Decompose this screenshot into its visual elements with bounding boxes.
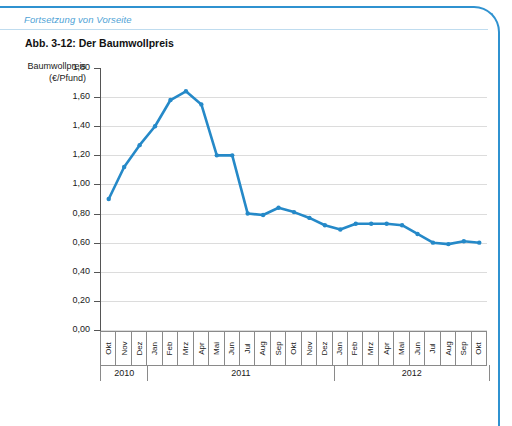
y-axis-tick-label: 0,20 xyxy=(6,295,90,305)
y-axis-tick xyxy=(94,272,100,273)
x-axis-month-label: Okt xyxy=(474,342,483,354)
x-axis-month-cell: Mai xyxy=(394,331,409,365)
data-point xyxy=(245,211,249,215)
x-axis-month-cell: Jun xyxy=(410,331,425,365)
x-axis-month-cell: Okt xyxy=(101,331,116,365)
data-point xyxy=(431,240,435,244)
x-axis-month-cell: Jan xyxy=(147,331,162,365)
series-baumwollpreis xyxy=(101,68,487,330)
x-axis-month-label: Apr xyxy=(196,342,205,354)
x-axis-month-label: Jan xyxy=(335,342,344,355)
data-point xyxy=(338,227,342,231)
y-axis-tick-label: 1,60 xyxy=(6,91,90,101)
data-point xyxy=(462,239,466,243)
x-axis-month-cell: Mai xyxy=(209,331,224,365)
x-axis-month-label: Mrz xyxy=(366,341,375,354)
y-axis-tick xyxy=(94,126,100,127)
y-axis-tick xyxy=(94,243,100,244)
x-axis-month-label: Feb xyxy=(165,341,174,355)
x-axis-month-cell: Nov xyxy=(116,331,131,365)
x-axis-month-label: Mai xyxy=(212,342,221,355)
data-point xyxy=(168,98,172,102)
x-axis-year-labels: 201020112012 xyxy=(101,365,487,381)
x-axis-month-cell: Feb xyxy=(348,331,363,365)
data-point xyxy=(107,197,111,201)
x-axis-month-cell: Mrz xyxy=(363,331,378,365)
data-point xyxy=(292,210,296,214)
x-axis-month-cell: Apr xyxy=(194,331,209,365)
plot-area xyxy=(101,68,487,330)
x-axis-month-cell: Nov xyxy=(302,331,317,365)
x-axis-month-cell: Jul xyxy=(425,331,440,365)
x-axis-month-label: Aug xyxy=(443,341,452,355)
data-point xyxy=(215,153,219,157)
x-axis-month-label: Feb xyxy=(351,341,360,355)
x-axis-month-label: Aug xyxy=(258,341,267,355)
data-point xyxy=(477,240,481,244)
data-point xyxy=(400,223,404,227)
data-point xyxy=(323,223,327,227)
x-axis-month-label: Nov xyxy=(304,341,313,355)
x-axis-year-label: 2010 xyxy=(114,368,134,378)
x-axis-month-label: Dez xyxy=(320,341,329,355)
x-axis-year-label: 2011 xyxy=(231,368,250,378)
x-axis-month-label: Jun xyxy=(227,342,236,355)
y-axis-tick xyxy=(94,155,100,156)
y-axis-tick xyxy=(94,301,100,302)
data-point xyxy=(122,165,126,169)
x-axis-month-cell: Aug xyxy=(441,331,456,365)
y-axis-tick-label: 1,00 xyxy=(6,178,90,188)
data-point xyxy=(415,232,419,236)
y-axis-tick-label: 1,80 xyxy=(6,62,90,72)
x-axis-month-label: Okt xyxy=(289,342,298,354)
x-axis-month-label: Nov xyxy=(119,341,128,355)
y-axis-tick-label: 0,40 xyxy=(6,266,90,276)
data-point xyxy=(230,153,234,157)
x-axis-month-cell: Sep xyxy=(456,331,471,365)
x-axis-month-label: Dez xyxy=(135,341,144,355)
x-axis-month-cell: Dez xyxy=(317,331,332,365)
x-axis-month-label: Sep xyxy=(459,341,468,355)
x-axis-month-cell: Aug xyxy=(255,331,270,365)
x-axis-month-cell: Mrz xyxy=(178,331,193,365)
y-axis-tick xyxy=(94,330,100,331)
x-axis-month-cell: Jun xyxy=(225,331,240,365)
x-axis-month-cell: Apr xyxy=(379,331,394,365)
x-axis-month-cell: Feb xyxy=(163,331,178,365)
data-point xyxy=(369,222,373,226)
x-axis-year-label: 2012 xyxy=(402,368,422,378)
x-axis-month-cell: Okt xyxy=(472,331,487,365)
x-axis-month-label: Jul xyxy=(243,343,252,353)
data-point xyxy=(199,102,203,106)
data-point xyxy=(384,222,388,226)
y-axis-tick xyxy=(94,214,100,215)
x-axis-month-label: Okt xyxy=(104,342,113,354)
x-axis-year-cell: 2012 xyxy=(335,365,490,381)
y-axis-tick xyxy=(94,184,100,185)
x-axis-year-cell: 2010 xyxy=(101,365,148,381)
y-axis-tick-label: 0,00 xyxy=(6,324,90,334)
x-axis-year-cell: 2011 xyxy=(148,365,334,381)
data-point xyxy=(446,242,450,246)
data-point xyxy=(307,216,311,220)
x-axis-month-label: Sep xyxy=(274,341,283,355)
data-point xyxy=(153,124,157,128)
x-axis-month-cell: Sep xyxy=(271,331,286,365)
data-point xyxy=(354,222,358,226)
x-axis-month-label: Mrz xyxy=(181,341,190,354)
data-point xyxy=(261,213,265,217)
y-axis-tick-label: 0,80 xyxy=(6,208,90,218)
x-axis-month-cell: Dez xyxy=(132,331,147,365)
x-axis-month-label: Apr xyxy=(382,342,391,354)
data-point xyxy=(184,89,188,93)
series-line xyxy=(109,91,480,244)
y-axis-tick-labels: 1,801,601,401,201,000,800,600,400,200,00 xyxy=(4,0,90,383)
x-axis-month-labels: OktNovDezJanFebMrzAprMaiJunJulAugSepOktN… xyxy=(101,331,487,365)
x-axis-month-label: Mai xyxy=(397,342,406,355)
x-axis-month-cell: Okt xyxy=(286,331,301,365)
x-axis-month-label: Jan xyxy=(150,342,159,355)
y-axis-tick-label: 0,60 xyxy=(6,237,90,247)
y-axis-tick-label: 1,40 xyxy=(6,120,90,130)
y-axis-tick xyxy=(94,97,100,98)
